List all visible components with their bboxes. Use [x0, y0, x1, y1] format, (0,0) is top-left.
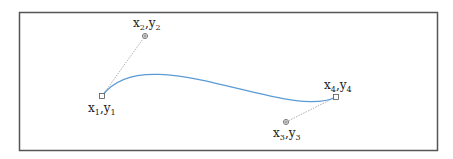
label-p2: x2,y2	[133, 17, 161, 32]
label-p2-y-sub: 2	[155, 23, 160, 32]
label-p4-y-sub: 4	[346, 85, 351, 94]
anchor-point-end-square-icon[interactable]	[334, 95, 339, 100]
frame-border	[20, 13, 438, 151]
control-point-3-circle-plus-icon[interactable]	[283, 119, 288, 124]
label-p3-x: x	[273, 126, 280, 140]
control-point-2-circle-plus-icon[interactable]	[142, 33, 147, 38]
anchor-point-start-square-icon[interactable]	[100, 94, 105, 99]
label-p2-x: x	[133, 16, 140, 30]
label-p4: x4,y4	[324, 79, 352, 94]
label-p3-y-sub: 3	[295, 133, 300, 142]
label-p1-y-sub: 1	[110, 108, 115, 117]
label-p4-x: x	[324, 78, 331, 92]
label-p3: x3,y3	[273, 127, 301, 142]
label-p1-x: x	[88, 101, 95, 115]
label-p1: x1,y1	[88, 102, 116, 117]
diagram-canvas	[0, 0, 453, 159]
bezier-diagram: x1,y1 x2,y2 x3,y3 x4,y4	[0, 0, 453, 159]
